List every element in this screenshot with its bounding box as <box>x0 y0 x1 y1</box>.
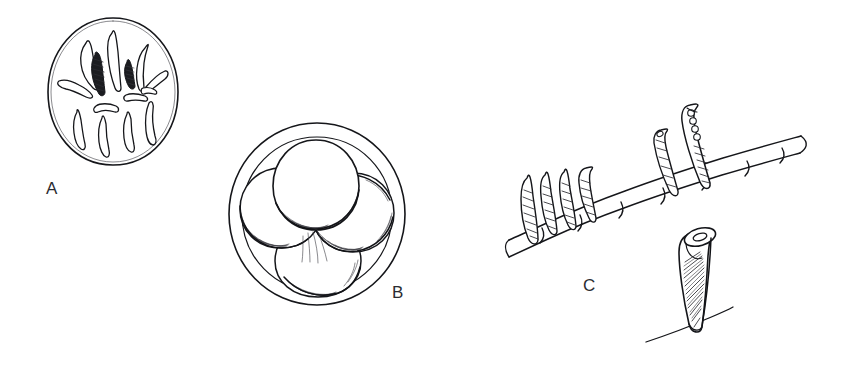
panel-label-c: C <box>583 277 596 294</box>
panel-a-body-7 <box>124 94 148 101</box>
figure-root: A B C <box>0 0 842 370</box>
panel-c-spore-2 <box>690 118 697 125</box>
panel-b-sphere-top <box>273 140 359 230</box>
panel-label-b: B <box>392 284 404 301</box>
scientific-illustration <box>0 0 842 370</box>
panel-c-spore-3 <box>692 126 699 133</box>
panel-label-a: A <box>46 180 58 197</box>
panel-c-spore-4 <box>694 134 701 141</box>
